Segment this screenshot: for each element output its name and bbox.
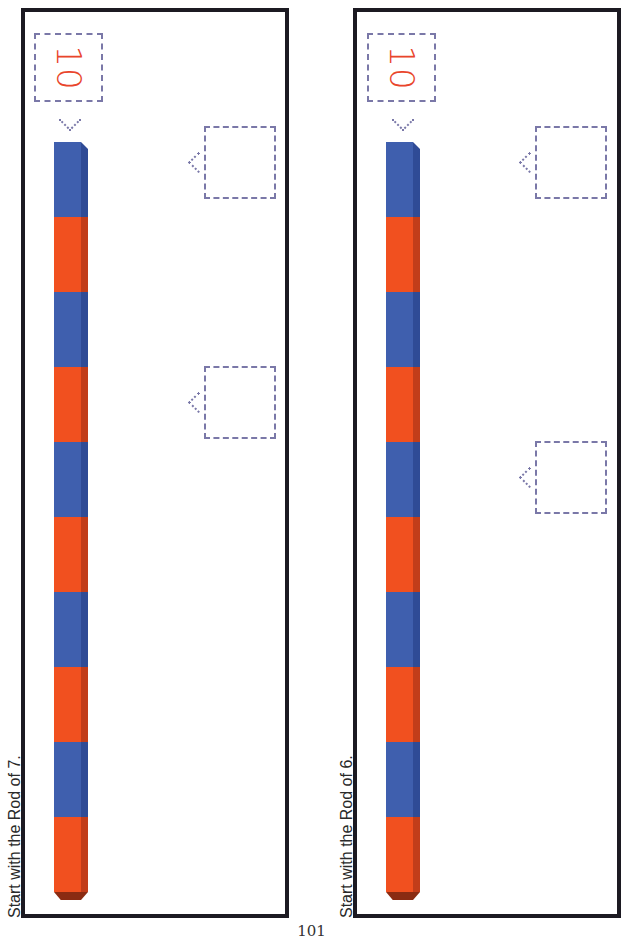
rod-label-number: 10 — [52, 45, 86, 90]
rod-segment-red — [386, 367, 420, 442]
rod-segment-red — [54, 217, 88, 292]
instruction-text: Start with the Rod of 6. — [338, 755, 356, 918]
rod-label-box: 10 — [367, 33, 436, 102]
rod-segment-red — [386, 517, 420, 592]
answer-box[interactable] — [204, 126, 276, 199]
rod-segment-blue — [386, 742, 420, 817]
rod-segment-blue — [386, 592, 420, 667]
rod-segment-red — [54, 817, 88, 892]
answer-box[interactable] — [204, 366, 276, 439]
rod-segment-red — [386, 217, 420, 292]
rod-segment-blue — [54, 742, 88, 817]
rod-segment-red — [54, 667, 88, 742]
answer-box[interactable] — [535, 126, 607, 199]
rod-segment-blue — [386, 292, 420, 367]
rod-segment-red — [386, 817, 420, 892]
page-number: 101 — [0, 922, 623, 940]
rod-segment-red — [54, 517, 88, 592]
rod-label-box: 10 — [34, 33, 103, 102]
rod-label-number: 10 — [385, 45, 419, 90]
answer-box[interactable] — [535, 441, 607, 514]
rod-segment-red — [54, 367, 88, 442]
rod-segment-blue — [386, 442, 420, 517]
rod-segment-red — [386, 667, 420, 742]
instruction-text: Start with the Rod of 7. — [6, 755, 24, 918]
rod-segment-blue — [54, 292, 88, 367]
rod-segment-blue — [54, 592, 88, 667]
rod-segment-blue — [386, 142, 420, 217]
rod-segment-blue — [54, 142, 88, 217]
rod-segment-blue — [54, 442, 88, 517]
